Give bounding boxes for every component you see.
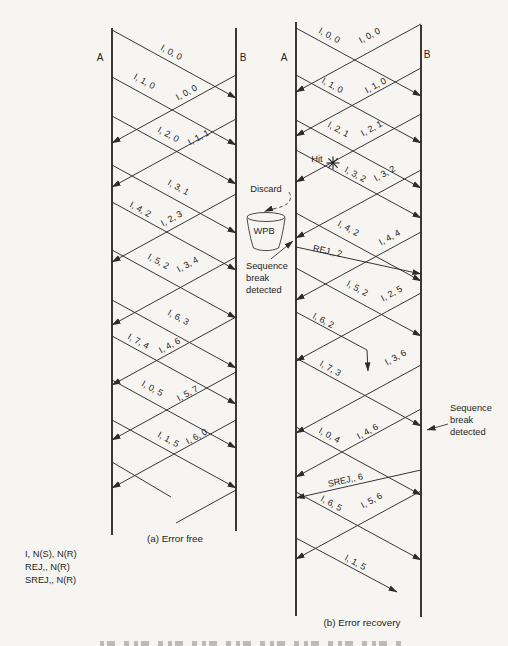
hit-label: Hit (311, 154, 323, 164)
endpoint-label-b-a: B (240, 52, 247, 63)
seq-break-left-label-line-1: break (246, 273, 270, 283)
frame-arrow-i-3-6-b-14 (296, 365, 421, 433)
frame-label-i-0-4-b-16: I, 0, 4 (317, 426, 342, 446)
frame-arrow-i-6-5-b-19 (296, 492, 421, 560)
frame-label-i-2-5-b-12: I, 2, 5 (379, 284, 404, 304)
seq-break-left-label-line-0: Sequence (246, 261, 288, 271)
frame-label-i-5-2-a-8: I, 5, 2 (146, 252, 171, 272)
frame-label-i-4-6-a-12: I, 4, 6 (157, 336, 182, 356)
endpoint-label-a-b: A (281, 52, 288, 63)
frame-arrow-i-4-6-b-17 (296, 409, 421, 477)
caption-a: (a) Error free (147, 533, 204, 544)
seq-break-right-label-line-0: Sequence (450, 403, 492, 413)
discard-arrow (265, 192, 291, 212)
legend-line-0: I, N(S), N(R) (25, 549, 77, 559)
frame-label-i-6-3-a-10: I, 6, 3 (166, 308, 191, 328)
frame-label-i-1-1-a-4: I, 1, 1 (186, 128, 211, 148)
frame-label-i-0-0-b-1: I, 0, 0 (357, 26, 382, 46)
frame-label-i-5-2-b-11: I, 5, 2 (345, 279, 370, 299)
frame-arrow-i-7-3-b-15 (296, 358, 421, 426)
truncated-line-a-18 (176, 490, 236, 523)
seq-break-left-label-line-2: detected (246, 285, 282, 295)
frame-label-i-7-4-a-11: I, 7, 4 (126, 332, 151, 352)
legend-line-1: REJ,, N(R) (25, 562, 70, 572)
frame-label-i-3-2-b-6: I, 3, 2 (343, 165, 368, 185)
frame-label-rej-2-b-9: REJ,, 2 (312, 243, 343, 259)
frame-label-i-0-0-a-2: I, 0, 0 (174, 83, 199, 103)
frame-arrow-i-4-6-a-12 (112, 317, 236, 385)
frame-label-i-1-5-b-21: I, 1, 5 (343, 553, 368, 572)
frame-label-i-2-3-a-7: I, 2, 3 (159, 209, 184, 229)
legend-line-2: SREJ,, N(R) (25, 575, 76, 585)
frame-label-i-3-1-a-5: I, 3, 1 (166, 178, 191, 198)
truncated-line-a-17 (112, 462, 171, 497)
frame-label-i-3-6-b-14: I, 3, 6 (383, 348, 408, 368)
endpoint-label-a-a: A (97, 52, 104, 63)
frame-arrow-i-0-0-b-1 (296, 24, 421, 92)
frame-label-i-7-3-b-15: I, 7, 3 (318, 359, 343, 379)
frame-arrow-i-1-0-b-3 (296, 68, 421, 136)
cropped-caption-artifact (100, 641, 406, 646)
frame-label-i-6-5-b-19: I, 6, 5 (319, 494, 344, 514)
frame-label-i-5-6-b-20: I, 5, 6 (359, 491, 384, 511)
frame-label-i-2-0-a-3: I, 2, 0 (156, 125, 181, 145)
frame-label-i-3-2-b-7: I, 3, 2 (372, 164, 397, 184)
frame-label-i-4-2-a-6: I, 4, 2 (128, 200, 153, 220)
frame-arrow-i-1-5-b-21 (296, 538, 397, 592)
frame-label-i-6-0-a-16: I, 6, 0 (184, 427, 209, 447)
frame-label-i-2-1-b-5: I, 2, 1 (359, 119, 384, 139)
figure-page: ABI, 0, 0I, 1, 0I, 0, 0I, 2, 0I, 1, 1I, … (0, 0, 508, 646)
frame-label-i-1-0-a-1: I, 1, 0 (132, 72, 157, 92)
frame-arrow-i-3-1-a-5 (112, 165, 236, 233)
frame-label-i-3-4-a-9: I, 3, 4 (175, 255, 200, 275)
frame-arrow-i-5-2-b-11 (296, 268, 421, 336)
wpb-bucket-rim (247, 213, 285, 222)
frame-arrow-i-1-0-b-2 (296, 75, 421, 143)
endpoint-label-b-b: B (424, 49, 431, 60)
wpb-label: WPB (253, 226, 274, 236)
hit-burst-icon (327, 157, 340, 170)
timing-diagram-figure: ABI, 0, 0I, 1, 0I, 0, 0I, 2, 0I, 1, 1I, … (0, 0, 508, 646)
discard-label: Discard (250, 184, 282, 194)
frame-label-i-0-5-a-13: I, 0, 5 (140, 379, 165, 399)
frame-label-i-0-0-b-0: I, 0, 0 (317, 26, 342, 46)
frame-arrow-i-2-0-a-3 (112, 116, 236, 184)
frame-label-i-5-7-a-14: I, 5, 7 (175, 384, 200, 404)
seq-break-right-label-line-1: break (450, 415, 474, 425)
seq-break-left-pointer-arrow (271, 241, 293, 259)
frame-label-i-0-0-a-0: I, 0, 0 (159, 43, 184, 63)
frame-label-i-1-0-b-2: I, 1, 0 (320, 76, 345, 96)
seq-break-right-label-line-2: detected (450, 427, 486, 437)
frame-arrow-i-0-0-a-0 (112, 30, 236, 98)
frame-arrow-i-1-1-a-4 (112, 119, 236, 187)
seq-break-right-pointer-arrow (427, 424, 448, 430)
frame-label-srej-6-b-18: SREJ,, 6 (327, 471, 364, 489)
caption-b: (b) Error recovery (324, 617, 401, 628)
frame-label-i-2-1-b-4: I, 2, 1 (326, 120, 351, 140)
frame-label-i-4-2-b-8: I, 4, 2 (336, 219, 361, 239)
